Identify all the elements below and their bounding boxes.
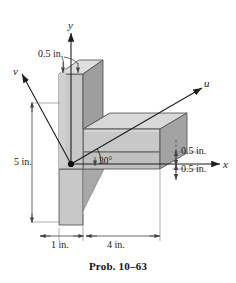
u-axis-label: u — [204, 78, 210, 89]
v-axis-label: v — [13, 66, 18, 77]
y-axis-label: y — [68, 20, 73, 31]
tee-section-solid — [59, 60, 187, 225]
flange-front-face-lower — [83, 152, 160, 169]
dim-label-flange-thickness-upper: 0.5 in. — [181, 146, 206, 156]
dim-label-web-width: 1 in. — [51, 240, 69, 250]
flange-front-face-upper — [83, 129, 160, 152]
dim-label-flange-length: 4 in. — [107, 240, 125, 250]
dim-label-flange-thickness-lower: 0.5 in. — [181, 164, 206, 174]
problem-figure: y x u v 30° 0.5 in. 5 in. 1 in. 4 in. 0.… — [0, 0, 236, 283]
figure-caption: Prob. 10–63 — [0, 260, 236, 272]
dim-label-web-height: 5 in. — [14, 157, 32, 167]
origin-dot — [68, 161, 74, 167]
x-axis-label: x — [223, 159, 228, 170]
web-lower-front-face — [59, 169, 83, 225]
angle-label-30: 30° — [99, 157, 112, 167]
dim-label-web-thickness: 0.5 in. — [38, 49, 63, 59]
